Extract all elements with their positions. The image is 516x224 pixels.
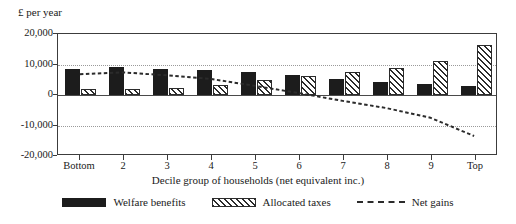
legend-label: Welfare benefits bbox=[113, 196, 185, 208]
x-axis-tick-label: 7 bbox=[340, 160, 345, 172]
x-axis-tick-label: 9 bbox=[428, 160, 433, 172]
x-axis-tick-label: 8 bbox=[384, 160, 389, 172]
x-axis-tick-label: 2 bbox=[120, 160, 125, 172]
legend-item-welfare-benefits: Welfare benefits bbox=[62, 196, 185, 208]
legend-label: Net gains bbox=[412, 196, 454, 208]
dashed-line-swatch-icon bbox=[357, 201, 405, 203]
y-axis-title: £ per year bbox=[18, 6, 62, 18]
x-axis-tick-label: 6 bbox=[296, 160, 301, 172]
x-axis-tick-label: Top bbox=[467, 160, 483, 172]
chart-legend: Welfare benefits Allocated taxes Net gai… bbox=[0, 196, 516, 208]
x-axis-tick-label: 4 bbox=[208, 160, 213, 172]
legend-item-net-gains: Net gains bbox=[357, 196, 454, 208]
x-axis-tick-label: 3 bbox=[164, 160, 169, 172]
y-axis-tick-label: 0 bbox=[1, 89, 53, 100]
net-gains-line bbox=[58, 34, 496, 154]
y-axis-tick-label: 20,000 bbox=[1, 28, 53, 39]
y-axis-tick-labels: 20,00010,0000-10,000-20,000 bbox=[0, 33, 53, 155]
legend-item-allocated-taxes: Allocated taxes bbox=[212, 196, 331, 208]
hatched-swatch-icon bbox=[212, 198, 256, 207]
x-axis-tick-labels: Bottom23456789Top bbox=[57, 160, 497, 174]
x-axis-title: Decile group of households (net equivale… bbox=[0, 174, 516, 186]
y-axis-tick-label: -10,000 bbox=[1, 120, 53, 131]
legend-label: Allocated taxes bbox=[263, 196, 331, 208]
chart-figure: £ per year 20,00010,0000-10,000-20,000 B… bbox=[0, 0, 516, 224]
solid-black-swatch-icon bbox=[62, 198, 106, 207]
x-axis-tick-label: Bottom bbox=[63, 160, 95, 172]
x-axis-tick-label: 5 bbox=[252, 160, 257, 172]
plot-area bbox=[57, 33, 497, 155]
y-axis-tick-label: -20,000 bbox=[1, 150, 53, 161]
y-axis-tick-label: 10,000 bbox=[1, 59, 53, 70]
